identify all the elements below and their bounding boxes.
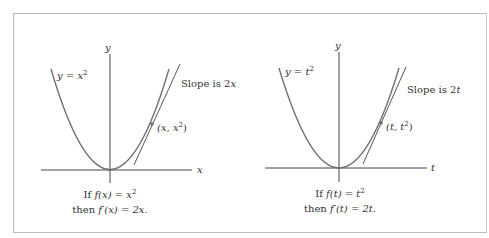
right-panel: y t y = t2 Slope is 2t (t, t2) If f(t) =…	[265, 40, 461, 214]
y-axis-label: y	[104, 42, 111, 53]
caption-line-2: then f′(t) = 2t.	[304, 203, 376, 214]
tangent-point	[379, 121, 383, 125]
caption-line-2: then f′(x) = 2x.	[72, 204, 147, 215]
x-axis-label: x	[197, 164, 203, 175]
point-label: (t, t2)	[386, 120, 413, 132]
t-axis-label: t	[431, 162, 436, 173]
caption-line-1: If f(t) = t2	[315, 187, 365, 199]
function-label: y = t2	[284, 65, 314, 77]
tangent-point	[150, 122, 154, 126]
derivative-diagram: y x y = x2 Slope is 2x (x, x2) If f(x) =…	[0, 0, 489, 238]
y-axis-label: y	[334, 40, 341, 51]
slope-label: Slope is 2t	[407, 84, 461, 95]
tangent-line	[363, 67, 406, 164]
left-panel: y x y = x2 Slope is 2x (x, x2) If f(x) =…	[41, 42, 236, 215]
point-label: (x, x2)	[157, 121, 187, 133]
slope-label: Slope is 2x	[181, 78, 236, 89]
caption-line-1: If f(x) = x2	[84, 188, 137, 200]
tangent-line	[134, 64, 180, 165]
function-label: y = x2	[56, 69, 88, 81]
